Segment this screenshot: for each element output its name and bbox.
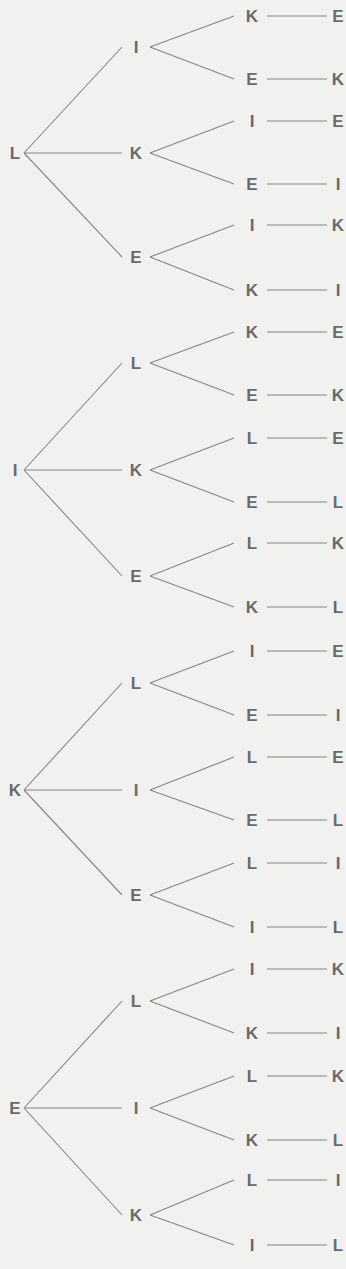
level2-node-label: E [246,493,257,512]
level2-node-label: L [247,748,257,767]
branch-line [150,1001,234,1033]
leaf-node-label: L [333,493,343,512]
leaf-node-label: L [333,598,343,617]
branch-line [150,225,234,257]
level2-node-label: K [246,281,259,300]
leaf-node-label: I [336,706,341,725]
branch-line [150,332,234,363]
level2-node-label: E [246,706,257,725]
branch-line [150,1215,234,1245]
level1-node-label: K [130,144,143,163]
level1-node-label: I [134,781,139,800]
level2-node-label: K [246,598,259,617]
permutation-tree-diagram: LIKEEKKIEEIEIKKIILKEEKKLEELELKKLKLIEEIIL… [0,0,346,1269]
level1-node-label: L [131,674,141,693]
branch-line [150,757,234,790]
branch-line [150,257,234,290]
leaf-node-label: E [332,642,343,661]
level2-node-label: I [250,642,255,661]
leaf-node-label: I [336,175,341,194]
branch-line [24,683,122,790]
branch-line [24,47,122,153]
level2-node-label: E [246,386,257,405]
level2-node-label: I [250,112,255,131]
branch-line [24,1001,122,1108]
level2-node-label: L [247,1171,257,1190]
branch-line [150,1180,234,1215]
branch-line [150,543,234,576]
leaf-node-label: L [333,1131,343,1150]
level1-node-label: E [130,886,141,905]
level2-node-label: K [246,7,259,26]
level1-node-label: K [130,461,143,480]
level2-node-label: L [247,429,257,448]
leaf-node-label: E [332,323,343,342]
leaf-node-label: K [332,70,345,89]
level2-node-label: I [250,918,255,937]
leaf-node-label: K [332,216,345,235]
leaf-node-label: I [336,854,341,873]
branch-line [24,153,122,257]
branch-line [150,790,234,820]
leaf-node-label: L [333,811,343,830]
level2-node-label: I [250,1236,255,1255]
branch-line [150,683,234,715]
level1-node-label: I [134,38,139,57]
leaf-node-label: L [333,1236,343,1255]
level2-node-label: I [250,960,255,979]
branch-line [150,470,234,502]
branch-line [150,363,234,395]
branch-line [24,363,122,470]
branch-line [150,1076,234,1108]
leaf-node-label: E [332,429,343,448]
branch-line [150,47,234,79]
level1-node-label: I [134,1099,139,1118]
leaf-node-label: E [332,7,343,26]
leaf-node-label: I [336,281,341,300]
leaf-node-label: L [333,918,343,937]
leaf-node-label: I [336,1024,341,1043]
level2-node-label: L [247,1067,257,1086]
branch-line [150,153,234,184]
leaf-node-label: E [332,748,343,767]
level2-node-label: L [247,854,257,873]
branch-line [24,790,122,895]
level1-node-label: E [130,248,141,267]
level1-node-label: L [131,992,141,1011]
branch-line [150,576,234,607]
branch-line [150,438,234,470]
branch-line [150,895,234,927]
branch-line [24,1108,122,1215]
level1-node-label: L [131,354,141,373]
leaf-node-label: K [332,1067,345,1086]
level2-node-label: E [246,175,257,194]
leaf-node-label: E [332,112,343,131]
level2-node-label: K [246,1024,259,1043]
branch-line [150,1108,234,1140]
branch-line [150,16,234,47]
branch-line [24,470,122,576]
branch-line [150,651,234,683]
level2-node-label: K [246,1131,259,1150]
level2-node-label: I [250,216,255,235]
leaf-node-label: K [332,960,345,979]
leaf-node-label: K [332,386,345,405]
leaf-node-label: K [332,534,345,553]
leaf-node-label: I [336,1171,341,1190]
level2-node-label: E [246,70,257,89]
tree-root-label: K [9,781,22,800]
branch-line [150,121,234,153]
tree-root-label: E [9,1099,20,1118]
level2-node-label: L [247,534,257,553]
tree-root-label: I [13,461,18,480]
branch-line [150,863,234,895]
tree-diagram-svg: LIKEEKKIEEIEIKKIILKEEKKLEELELKKLKLIEEIIL… [0,0,346,1269]
level2-node-label: K [246,323,259,342]
branch-line [150,969,234,1001]
level1-node-label: K [130,1206,143,1225]
tree-root-label: L [10,144,20,163]
level2-node-label: E [246,811,257,830]
level1-node-label: E [130,567,141,586]
